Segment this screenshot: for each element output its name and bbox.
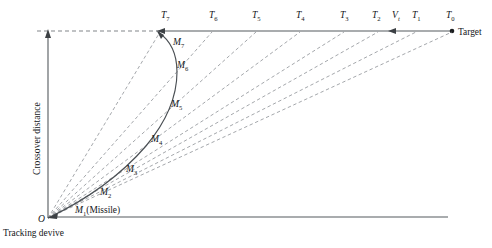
sight-line-t3 — [48, 32, 344, 218]
label-crossover-distance: Crossover distance — [31, 102, 42, 175]
target-dot-marker — [450, 29, 455, 34]
sight-line-t5 — [48, 32, 256, 218]
label-target-time-t6: T6 — [209, 9, 218, 22]
label-target-velocity-vt: Vt — [392, 9, 400, 22]
label-target-time-t2: T2 — [372, 9, 381, 22]
label-target-time-t5: T5 — [252, 9, 261, 22]
target-axis-arrowhead-vt-icon — [388, 28, 396, 34]
label-target-time-t3: T3 — [340, 9, 349, 22]
label-origin-o: O — [38, 213, 45, 224]
label-target-time-t7: T7 — [161, 9, 170, 22]
label-target: Target — [458, 27, 482, 37]
vertical-axis-arrowhead-icon — [45, 29, 51, 38]
label-target-time-t1: T1 — [412, 9, 421, 22]
figure-container: T7 T6 T5 T4 T3 T2 Vt T1 T0 Target M1(Mis — [0, 0, 492, 248]
sight-line-t0 — [48, 32, 452, 218]
sight-line-t6 — [48, 32, 212, 218]
label-missile-m7: M7 — [172, 36, 185, 49]
diagram-canvas: T7 T6 T5 T4 T3 T2 Vt T1 T0 Target M1(Mis — [0, 0, 492, 248]
label-target-time-t4: T4 — [296, 9, 305, 22]
label-missile-m5: M5 — [170, 98, 183, 111]
label-missile-m6: M6 — [176, 59, 189, 72]
label-missile-m2: M2 — [99, 186, 111, 199]
missile-trajectory-curve — [48, 32, 177, 218]
sight-line-t4 — [48, 32, 300, 218]
label-target-time-t0: T0 — [446, 9, 455, 22]
label-tracking-device: Tracking devive — [3, 228, 64, 238]
label-missile-m3: M3 — [125, 163, 138, 176]
label-missile-m1: M1(Missile) — [74, 204, 120, 217]
